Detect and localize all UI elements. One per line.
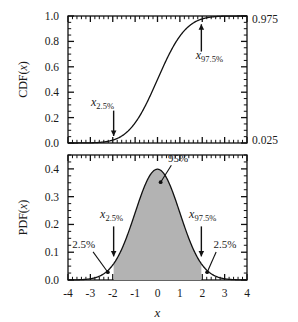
pdf-annotation-right-tail-2.5-percent-label: 2.5% <box>214 238 237 250</box>
pdf-x-tick-label: -1 <box>130 287 140 299</box>
pdf-annotation-x-2.5-percent-label: x2.5% <box>99 207 123 223</box>
pdf-95-percent-shaded-area <box>114 169 202 280</box>
figure-canvas: 0.00.20.40.60.81.00.00.10.20.30.40.9750.… <box>0 0 298 322</box>
pdf-y-tick-label: 0.1 <box>45 246 60 258</box>
pdf-x-tick-label: 2 <box>199 287 205 299</box>
pdf-y-tick-label: 0.0 <box>45 274 60 286</box>
pdf-y-axis-title: PDF(x) <box>16 200 30 235</box>
pdf-x-tick-label: 3 <box>222 287 228 299</box>
pdf-y-tick-label: 0.2 <box>45 218 60 230</box>
pdf-x-tick-label: 4 <box>244 287 250 299</box>
pdf-annotation-x-2.5-percent-arrow <box>111 226 117 256</box>
cdf-curve <box>68 16 247 143</box>
cdf-y-axis-title-text: CDF(x) <box>16 61 30 98</box>
cdf-y-tick-label: 0.0 <box>45 137 60 149</box>
pdf-annotation-x-97.5-percent-label: x97.5% <box>188 207 216 223</box>
pdf-x-tick-label: -2 <box>108 287 118 299</box>
cdf-y-axis-title: CDF(x) <box>16 61 30 98</box>
cdf-annotation-x-2.5-percent-label: x2.5% <box>90 95 114 111</box>
cdf-annotation-x-2.5-percent-arrow <box>111 111 117 136</box>
pdf-annotation-left-tail-2.5-percent-label: 2.5% <box>72 238 95 250</box>
normal-distribution-figure: 0.00.20.40.60.81.00.00.10.20.30.40.9750.… <box>0 0 298 322</box>
pdf-x-tick-label: -3 <box>86 287 96 299</box>
pdf-annotation-95-percent-label: 95% <box>168 152 188 164</box>
cdf-y-tick-label: 0.6 <box>45 61 60 73</box>
x-axis-title: x <box>154 305 161 320</box>
cdf-y-tick-label: 0.4 <box>45 86 60 98</box>
pdf-x-tick-label: 0 <box>155 287 161 299</box>
cdf-y-tick-label: 1.0 <box>45 10 60 22</box>
pdf-annotation-right-tail-2.5-percent-leader <box>205 252 216 274</box>
cdf-right-axis-label: 0.975 <box>252 13 278 25</box>
pdf-x-tick-label: 1 <box>177 287 183 299</box>
cdf-y-tick-label: 0.2 <box>45 112 60 124</box>
cdf-right-axis-label: 0.025 <box>252 134 278 146</box>
pdf-annotation-x-97.5-percent-arrow <box>199 226 205 256</box>
pdf-annotation-left-tail-2.5-percent-leader <box>93 252 110 274</box>
pdf-y-tick-label: 0.3 <box>45 191 60 203</box>
pdf-y-tick-label: 0.4 <box>45 163 60 175</box>
pdf-x-tick-label: -4 <box>63 287 73 299</box>
pdf-y-axis-title-text: PDF(x) <box>16 200 30 235</box>
cdf-y-tick-label: 0.8 <box>45 35 60 47</box>
cdf-annotation-x-97.5-percent-label: x97.5% <box>195 48 223 64</box>
